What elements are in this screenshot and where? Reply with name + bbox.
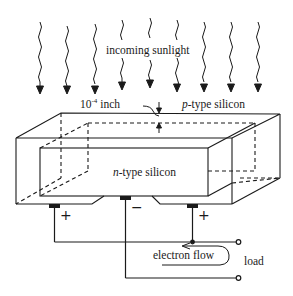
sunlight-ray-icon — [92, 24, 99, 94]
load-label: load — [244, 256, 264, 268]
sunlight-ray-icon — [228, 22, 235, 92]
thickness-indicator — [143, 102, 162, 133]
electron-flow-label: electron flow — [153, 250, 214, 262]
sunlight-ray-icon — [37, 22, 44, 94]
thickness-unit: inch — [97, 98, 120, 110]
n-type-box — [40, 123, 280, 196]
n-rest: -type silicon — [119, 166, 176, 178]
solar-cell-diagram: incoming sunlight 10-4 inch p-type silic… — [0, 0, 293, 296]
incoming-sunlight-label: incoming sunlight — [106, 45, 189, 57]
wiring — [55, 200, 241, 280]
sunlight-ray-icon — [64, 26, 71, 94]
contact-left — [49, 204, 60, 208]
thickness-label: 10-4 inch — [80, 98, 120, 110]
contact-right-polarity: + — [198, 208, 210, 222]
contact-right — [187, 204, 198, 208]
contact-middle — [120, 196, 131, 200]
thickness-base: 10 — [80, 98, 92, 110]
p-rest: -type silicon — [188, 98, 245, 110]
p-type-box — [16, 113, 280, 204]
contact-left-polarity: + — [60, 208, 72, 222]
p-type-label: p-type silicon — [182, 99, 245, 111]
n-type-label: n-type silicon — [113, 167, 176, 179]
contact-middle-polarity: − — [131, 200, 143, 214]
sunlight-ray-icon — [255, 22, 262, 92]
sunlight-ray-icon — [201, 22, 208, 92]
